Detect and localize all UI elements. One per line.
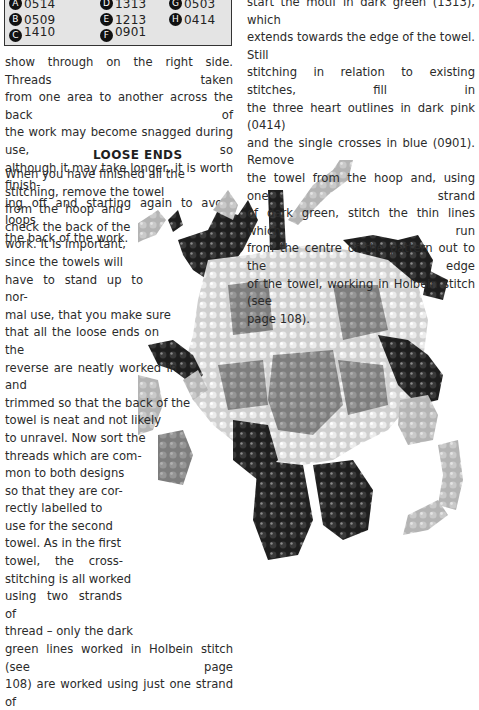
text-line: stitching in relation to existing stitch… [247,64,475,99]
left-column-body: When you have finished all the stitching… [5,166,237,710]
text-line: check the back of the [5,219,237,237]
text-line: show through on the right side. Threads … [5,54,233,89]
text-line: to unravel. Now sort the [5,430,237,448]
key-item-a: A0514 [9,0,55,11]
key-item-g: G0503 [169,0,215,11]
text-line: from the centre of the pattern out to th… [247,240,475,275]
key-letter-badge: H [169,13,182,26]
text-line: reverse are neatly worked in and [5,360,177,395]
text-line: of the towel, working in Holbein stitch … [247,276,475,311]
key-letter-badge: D [100,0,113,10]
text-line: towel. As in the first [5,535,237,553]
text-line: start the motif in dark green (1313), wh… [247,0,475,29]
key-letter-badge: F [100,29,113,42]
text-line: and the single crosses in blue (0901). R… [247,135,475,170]
text-line: using two strands of [5,588,122,623]
key-item-f: F0901 [100,28,146,43]
text-line: towel, the cross- [5,553,123,571]
text-line: from one area to another across the back… [5,89,233,124]
text-line: thread – only the dark [5,623,237,641]
text-line: 108) are worked using just one strand of [5,676,233,710]
text-line: stitching is all worked [5,571,237,589]
text-line: rectly labelled to [5,500,237,518]
text-line: since the towels will [5,254,123,272]
key-letter-badge: C [9,29,22,42]
thread-key-box: A0514 B0509 C1410 D1313 E1213 F0901 G050… [4,0,232,46]
text-line: threads which are com- [5,448,237,466]
text-line: the towel from the hoop and, using one s… [247,170,475,205]
key-letter-badge: G [169,0,182,10]
text-line: mal use, that you make sure [5,307,237,325]
text-line: When you have finished all the [5,166,149,184]
right-column-text: start the motif in dark green (1313), wh… [247,0,475,328]
text-line: green lines worked in Holbein stitch (se… [5,641,233,676]
text-line: mon to both designs [5,465,237,483]
text-line: that all the loose ends on the [5,324,159,359]
key-item-h: H0414 [169,12,215,27]
text-line: work. It is important, [5,236,237,254]
text-line: towel is neat and not likely [5,412,237,430]
text-line: extends towards the edge of the towel. S… [247,29,475,64]
text-line: of dark green, stitch the thin lines whi… [247,205,475,240]
key-letter-badge: E [100,13,113,26]
text-line: have to stand up to nor- [5,272,143,307]
text-line: use for the second [5,518,237,536]
text-line: the three heart outlines in dark pink (0… [247,100,475,135]
text-line: trimmed so that the back of the [5,395,237,413]
key-item-c: C1410 [9,28,55,43]
key-letter-badge: B [9,13,22,26]
text-line: stitching, remove the towel [5,184,237,202]
text-line: from the hoop and [5,201,123,219]
key-item-d: D1313 [100,0,146,11]
key-letter-badge: A [9,0,22,10]
text-line: so that they are cor- [5,483,237,501]
text-line: page 108). [247,311,475,329]
